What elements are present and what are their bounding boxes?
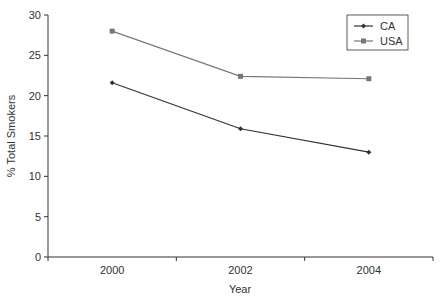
y-tick-label: 30 [29, 9, 41, 21]
y-tick-label: 20 [29, 90, 41, 102]
y-tick-label: 5 [35, 211, 41, 223]
x-ticks: 200020022004 [48, 257, 433, 276]
y-ticks: 051015202530 [29, 9, 48, 263]
series-ca [110, 80, 372, 154]
series-usa [110, 29, 372, 82]
svg-text:CA: CA [380, 20, 396, 32]
x-tick-label: 2000 [100, 264, 124, 276]
line-chart: 051015202530 200020022004 Year % Total S… [0, 0, 442, 301]
y-axis-label: % Total Smokers [5, 94, 17, 177]
y-tick-label: 25 [29, 49, 41, 61]
legend: CAUSA [347, 15, 408, 50]
svg-text:USA: USA [380, 35, 403, 47]
x-tick-label: 2002 [228, 264, 252, 276]
y-tick-label: 10 [29, 170, 41, 182]
y-tick-label: 0 [35, 251, 41, 263]
y-tick-label: 15 [29, 130, 41, 142]
x-axis-label: Year [229, 283, 252, 295]
x-tick-label: 2004 [357, 264, 381, 276]
series-lines [110, 29, 372, 155]
